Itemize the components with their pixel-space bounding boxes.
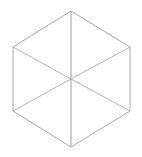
- figure-canvas: [0, 0, 142, 157]
- isometric-cube-wireframe: [0, 0, 142, 157]
